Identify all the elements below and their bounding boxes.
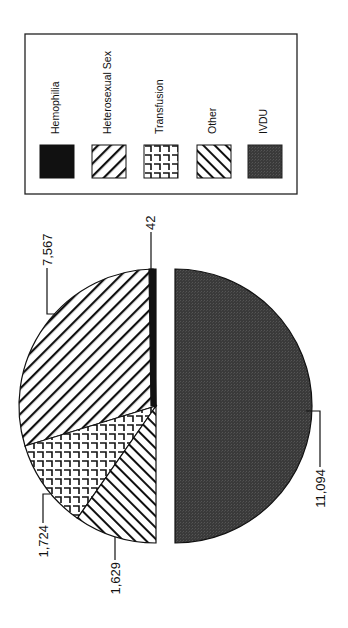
legend-label-heterosexual-sex: Heterosexual Sex	[101, 50, 113, 134]
value-label-hemophilia: 42	[143, 216, 158, 230]
legend-swatch-heterosexual-sex	[92, 145, 126, 178]
value-label-ivdu: 11,094	[313, 469, 328, 508]
legend-swatch-transfusion	[144, 145, 178, 178]
value-label-other: 1,629	[108, 562, 123, 595]
legend-label-other: Other	[206, 107, 218, 134]
pie-left-half	[19, 269, 156, 543]
legend: Hemophilia Heterosexual Sex Transfusion …	[25, 34, 297, 194]
value-label-heterosexual-sex: 7,567	[40, 233, 55, 266]
legend-label-ivdu: IVDU	[257, 109, 269, 134]
legend-label-hemophilia: Hemophilia	[49, 81, 61, 134]
legend-swatch-other	[197, 145, 231, 178]
leader-transfusion	[43, 494, 50, 523]
pie-chart: Hemophilia Heterosexual Sex Transfusion …	[0, 0, 348, 628]
legend-swatch-hemophilia	[40, 145, 74, 178]
value-label-transfusion: 1,724	[36, 525, 51, 558]
legend-swatch-ivdu	[248, 145, 282, 178]
slice-ivdu	[175, 269, 312, 543]
leader-heterosexual	[47, 268, 55, 314]
legend-label-transfusion: Transfusion	[153, 79, 165, 134]
